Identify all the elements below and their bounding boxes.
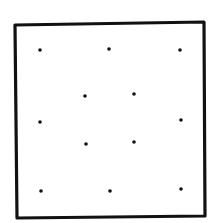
dot-square-diagram [0,0,215,223]
dot [107,47,111,51]
dot [39,189,43,193]
dot-group [38,47,183,193]
dot [132,140,136,144]
dot [38,120,42,124]
dot [132,92,136,96]
dot [178,48,182,52]
dot [84,142,88,146]
dot [179,187,183,191]
dot [38,48,42,52]
square-outline [15,22,205,218]
dot [83,94,87,98]
dot [108,189,112,193]
dot [179,118,183,122]
